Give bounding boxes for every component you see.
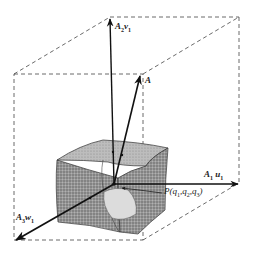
- curvilinear-box-svg: [0, 0, 258, 261]
- label-a: A: [145, 76, 151, 85]
- label-a1u1: A1 u1: [204, 170, 223, 181]
- volume-element: [56, 140, 168, 234]
- label-a3w1: A3w1: [16, 213, 34, 224]
- label-a2v1: A2v1: [115, 22, 131, 33]
- diagram-figure: A2v1 A A1 u1 P(q1,q2,q3) A3w1: [0, 0, 258, 261]
- origin-point: [112, 182, 116, 186]
- vector-a: [114, 76, 140, 184]
- label-point-p: P(q1,q2,q3): [164, 187, 203, 198]
